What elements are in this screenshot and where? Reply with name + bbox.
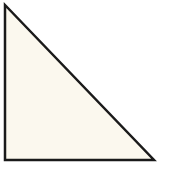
triangle-diagram [0,0,179,182]
